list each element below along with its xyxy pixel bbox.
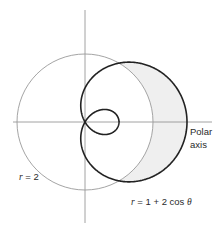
limacon-label: r = 1 + 2 cos θ bbox=[131, 197, 192, 208]
circle-label-rest: = 2 bbox=[23, 171, 39, 182]
limacon-label-rest: = 1 + 2 cos bbox=[135, 196, 187, 207]
limacon-label-theta: θ bbox=[187, 197, 192, 207]
polar-axis-label-line2: axis bbox=[190, 138, 212, 151]
polar-axis-label-line1: Polar bbox=[190, 125, 212, 138]
polar-axis-label: Polar axis bbox=[190, 125, 212, 151]
circle-label: r = 2 bbox=[19, 172, 39, 183]
